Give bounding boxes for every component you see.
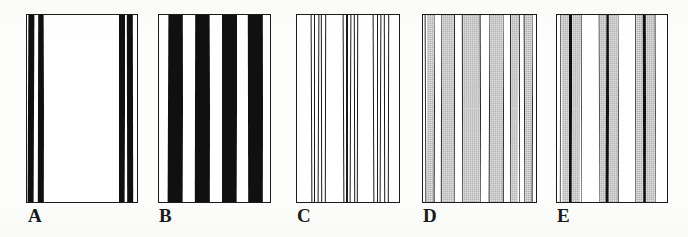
stripe-white	[158, 14, 168, 203]
stripe-line	[321, 14, 323, 203]
panel-label-b: B	[159, 206, 172, 225]
stripe-line	[342, 14, 344, 203]
stripe-black	[168, 14, 183, 203]
stripe-line	[314, 14, 315, 203]
panel-e	[556, 14, 668, 203]
panel-c	[296, 14, 400, 203]
stripe-black	[195, 14, 210, 203]
stripe-figure: ABCDE	[0, 0, 688, 237]
stripe-gray	[490, 14, 503, 203]
panel-label-c: C	[297, 206, 311, 225]
stripe-black	[222, 14, 237, 203]
stripe-line	[373, 14, 375, 203]
panel-label-a: A	[28, 206, 42, 225]
stripe-white	[619, 14, 635, 203]
stripe-white	[44, 14, 120, 203]
stripe-line	[354, 14, 356, 203]
stripe-gray	[463, 14, 481, 203]
panel-a	[26, 14, 138, 203]
stripe-line	[357, 14, 359, 203]
stripe-line	[346, 14, 347, 203]
panel-label-e: E	[557, 206, 570, 225]
stripe-white	[210, 14, 223, 203]
stripe-gray	[511, 14, 519, 203]
stripe-gray	[442, 14, 454, 203]
stripe-white	[183, 14, 196, 203]
stripe-line	[350, 14, 352, 203]
stripe-white	[582, 14, 599, 203]
stripe-line	[377, 14, 378, 203]
stripe-black	[248, 14, 263, 203]
stripe-white	[656, 14, 668, 203]
stripe-line	[325, 14, 327, 203]
stripe-line	[310, 14, 312, 203]
panel-d	[422, 14, 537, 203]
panel-b	[158, 14, 271, 203]
stripe-line	[384, 14, 386, 203]
stripe-gray	[645, 14, 654, 203]
stripe-line	[317, 14, 319, 203]
panel-label-d: D	[423, 206, 437, 225]
stripe-white	[533, 14, 537, 203]
stripe-black	[27, 14, 33, 203]
stripe-black	[127, 14, 134, 203]
stripe-gray	[572, 14, 581, 203]
stripe-line	[380, 14, 382, 203]
stripe-white	[263, 14, 271, 203]
stripe-line	[387, 14, 389, 203]
